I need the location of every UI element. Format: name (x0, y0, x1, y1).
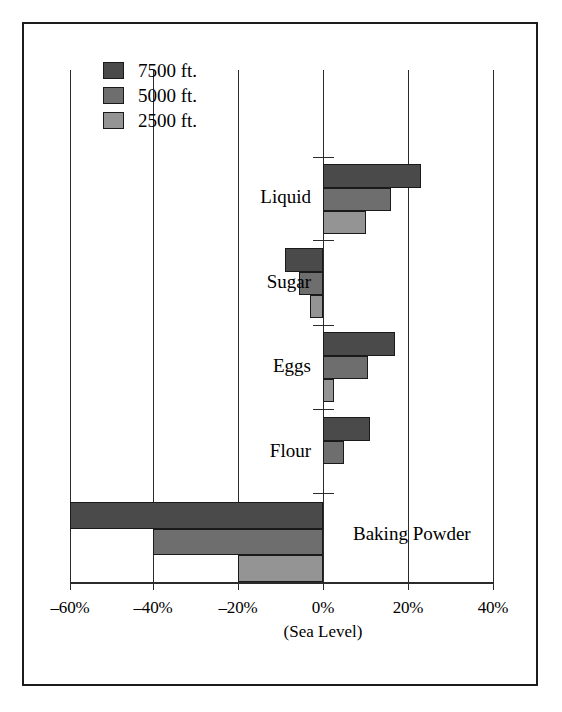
chart-outer-frame (22, 22, 538, 686)
legend-item-5000: 5000 ft. (103, 83, 197, 108)
legend-swatch-2500 (103, 112, 124, 129)
legend-swatch-5000 (103, 87, 124, 104)
legend-item-2500: 2500 ft. (103, 108, 197, 133)
chart-page: Liquid Sugar Eggs Flour Baking Powder –6… (0, 0, 562, 712)
legend-label-5000: 5000 ft. (138, 85, 197, 107)
legend-label-7500: 7500 ft. (138, 60, 197, 82)
chart-legend: 7500 ft. 5000 ft. 2500 ft. (103, 58, 197, 133)
legend-swatch-7500 (103, 62, 124, 79)
legend-label-2500: 2500 ft. (138, 110, 197, 132)
legend-item-7500: 7500 ft. (103, 58, 197, 83)
